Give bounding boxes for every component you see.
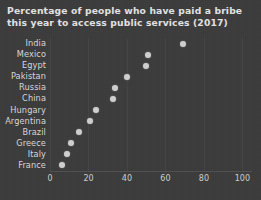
data-point-china (110, 96, 116, 102)
y-axis-category-labels: IndiaMexicoEgyptPakistanRussiaChinaHunga… (0, 38, 46, 171)
data-point-argentina (87, 118, 93, 124)
data-point-brazil (76, 129, 82, 135)
gridline-x-0 (50, 38, 51, 171)
data-point-egypt (143, 63, 149, 69)
y-axis-label-china: China (22, 94, 46, 103)
bribe-percentage-chart: Percentage of people who have paid a bri… (0, 0, 261, 200)
data-point-mexico (145, 52, 151, 58)
data-point-greece (68, 140, 74, 146)
data-point-hungary (93, 107, 99, 113)
gridline-x-100 (242, 38, 243, 171)
data-point-italy (64, 151, 70, 157)
data-point-pakistan (124, 74, 130, 80)
plot-area (50, 38, 252, 171)
x-tick-label-80: 80 (199, 174, 209, 183)
x-tick-label-100: 100 (235, 174, 250, 183)
x-axis-tick-labels: 020406080100 (50, 174, 252, 188)
data-point-france (59, 162, 65, 168)
x-tick-label-20: 20 (83, 174, 93, 183)
x-tick-label-60: 60 (160, 174, 170, 183)
x-tick-label-40: 40 (122, 174, 132, 183)
y-axis-label-italy: Italy (28, 150, 46, 159)
x-axis-baseline (50, 171, 252, 172)
y-axis-label-greece: Greece (16, 139, 46, 148)
y-axis-label-india: India (25, 39, 46, 48)
data-point-russia (112, 85, 118, 91)
y-axis-label-argentina: Argentina (5, 117, 46, 126)
y-axis-label-egypt: Egypt (22, 61, 46, 70)
gridline-x-80 (204, 38, 205, 171)
y-axis-label-hungary: Hungary (10, 106, 46, 115)
y-axis-label-brazil: Brazil (23, 128, 46, 137)
y-axis-label-pakistan: Pakistan (11, 72, 46, 81)
x-tick-label-0: 0 (47, 174, 52, 183)
y-axis-label-russia: Russia (19, 83, 46, 92)
gridline-x-40 (127, 38, 128, 171)
gridline-x-60 (165, 38, 166, 171)
y-axis-label-france: France (18, 161, 46, 170)
data-point-india (180, 41, 186, 47)
gridline-x-20 (88, 38, 89, 171)
chart-title: Percentage of people who have paid a bri… (7, 5, 253, 28)
y-axis-label-mexico: Mexico (17, 50, 46, 59)
